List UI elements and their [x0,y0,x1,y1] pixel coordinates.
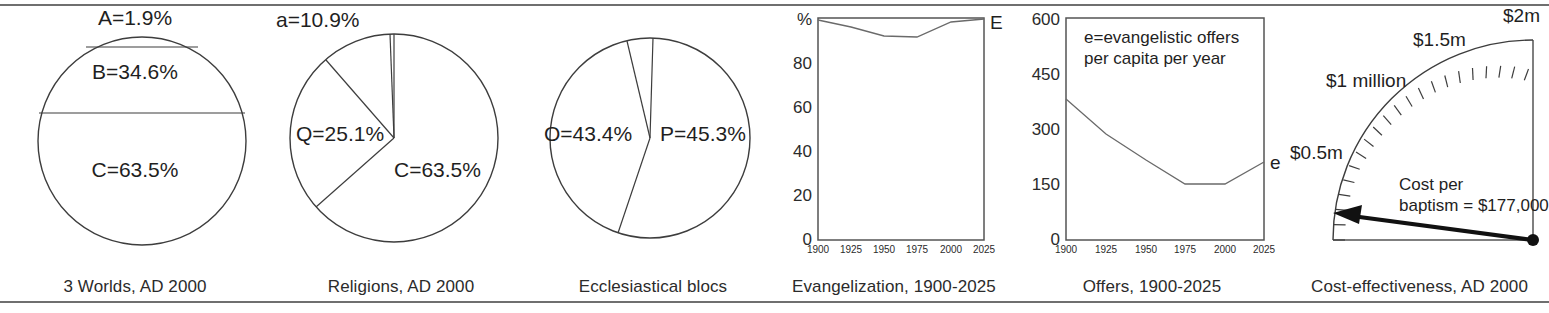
evangelization-xtick-2025: 2025 [964,244,1004,255]
ecclesiastical-label-p: P=45.3% [660,122,746,146]
evangelization-ytick-100: % [780,10,812,30]
offers-series-e [1066,99,1264,184]
panel-ecclesiastical-blocs: O=43.4% P=45.3% Ecclesiastical blocs [532,0,774,313]
religions-label-c: C=63.5% [394,158,481,182]
evangelization-ytick-40: 40 [780,142,812,162]
offers-xtick-2025: 2025 [1244,244,1284,255]
offers-legend-note: e=evangelistic offers per capita per yea… [1084,28,1239,69]
evangelization-series-mark-E: E [990,12,1003,34]
offers-ytick-300: 300 [1018,120,1060,140]
three-worlds-label-a: A=1.9% [0,6,270,30]
ecclesiastical-pie: O=43.4% P=45.3% [532,0,774,275]
evangelization-chart: % 80 60 40 20 0 1900 1925 1950 1975 2000… [774,0,1014,275]
panel-religions: a=10.9% Q=25.1% C=63.5% Religions, AD 20… [270,0,532,313]
panel-caption-cost-effectiveness: Cost-effectiveness, AD 2000 [1290,277,1549,297]
gauge-pivot-dot [1527,234,1539,246]
religions-label-a: a=10.9% [276,8,360,32]
gauge-scale-label-1-5m: $1.5m [1413,29,1466,51]
panel-caption-evangelization: Evangelization, 1900-2025 [774,277,1014,297]
gauge-scale-label-2m: $2m [1503,5,1540,27]
evangelization-ytick-60: 60 [780,98,812,118]
panel-cost-effectiveness: $0.5m $1 million $1.5m $2m Cost per bapt… [1290,0,1549,313]
panel-offers: 600 450 300 150 0 1900 1925 1950 1975 20… [1014,0,1290,313]
panel-caption-offers: Offers, 1900-2025 [1014,277,1290,297]
gauge-needle [1352,216,1533,240]
figure-strip: A=1.9% B=34.6% C=63.5% 3 Worlds, AD 2000… [0,0,1549,313]
evangelization-ytick-20: 20 [780,186,812,206]
gauge-needle-arrowhead [1333,205,1362,224]
offers-xtick-2000: 2000 [1205,244,1245,255]
gauge-scale-label-0-5m: $0.5m [1290,142,1343,164]
offers-ytick-600: 600 [1018,10,1060,30]
offers-xtick-1975: 1975 [1165,244,1205,255]
offers-ytick-450: 450 [1018,65,1060,85]
evangelization-ytick-80: 80 [780,54,812,74]
three-worlds-diagram: A=1.9% B=34.6% C=63.5% [0,0,270,275]
religions-label-q: Q=25.1% [296,122,384,146]
evangelization-plot-frame [818,18,984,240]
ecclesiastical-slice-edge-p-o [618,138,650,233]
three-worlds-label-c: C=63.5% [0,158,270,182]
offers-xtick-1950: 1950 [1126,244,1166,255]
offers-xtick-1900: 1900 [1046,244,1086,255]
ecclesiastical-slice-edge-top [650,38,653,138]
cost-effectiveness-gauge: $0.5m $1 million $1.5m $2m Cost per bapt… [1290,0,1549,275]
gauge-scale-label-1-million: $1 million [1326,70,1406,92]
religions-slice-edge-c-q [316,138,394,207]
evangelization-series-E [818,19,984,37]
offers-chart: 600 450 300 150 0 1900 1925 1950 1975 20… [1014,0,1290,275]
religions-pie: a=10.9% Q=25.1% C=63.5% [270,0,532,275]
three-worlds-svg [0,0,270,275]
offers-series-mark-e: e [1270,152,1281,174]
panel-caption-three-worlds: 3 Worlds, AD 2000 [0,277,270,297]
panel-three-worlds: A=1.9% B=34.6% C=63.5% 3 Worlds, AD 2000 [0,0,270,313]
religions-slice-edge-a-top-left [390,34,394,138]
panel-caption-religions: Religions, AD 2000 [270,277,532,297]
offers-xtick-1925: 1925 [1086,244,1126,255]
gauge-value-note: Cost per baptism = $177,000 [1399,175,1549,216]
panel-evangelization: % 80 60 40 20 0 1900 1925 1950 1975 2000… [774,0,1014,313]
three-worlds-label-b: B=34.6% [0,60,270,84]
ecclesiastical-label-o: O=43.4% [544,122,632,146]
offers-ytick-150: 150 [1018,175,1060,195]
panel-caption-ecclesiastical-blocs: Ecclesiastical blocs [532,277,774,297]
